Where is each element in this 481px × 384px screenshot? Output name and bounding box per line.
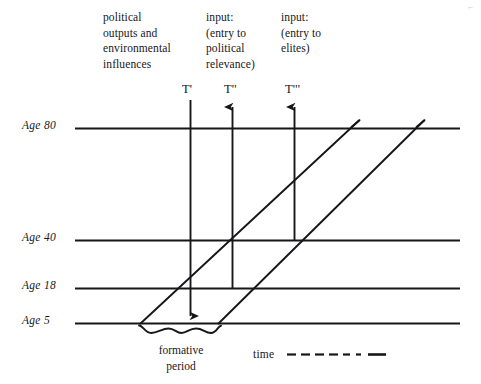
diagram-artwork: [0, 0, 481, 384]
formative-period-brace: [139, 326, 221, 334]
cohort-trajectory-tip-1: [352, 120, 360, 127]
diagram-canvas: political outputs and environmental infl…: [0, 0, 481, 384]
cohort-trajectory-tip-2: [417, 120, 425, 127]
scan-artifact-speck: ⌐: [468, 3, 475, 11]
